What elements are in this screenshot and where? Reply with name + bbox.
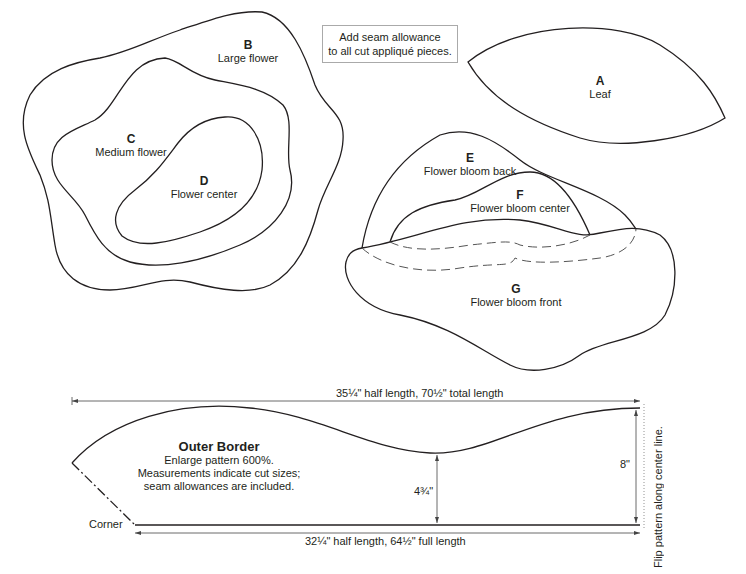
seam-allowance-note: Add seam allowance to all cut appliqué p… [322,25,458,63]
note-line-1: Add seam allowance [339,31,441,43]
top-dimension-label: 35¼" half length, 70½" total length [336,387,503,399]
medium-flower-outline [52,58,292,265]
outer-border-info: Outer Border Enlarge pattern 600%. Measu… [138,440,301,493]
overlap-dashed-line [362,229,636,270]
piece-d-label: D Flower center [171,175,238,201]
piece-f-label: F Flower bloom center [470,189,570,215]
piece-b-label: B Large flower [218,39,279,65]
piece-e-label: E Flower bloom back [424,152,516,178]
flip-note: Flip pattern along center line. [652,398,664,568]
corner-dash-line [72,463,135,525]
piece-c-label: C Medium flower [95,133,167,159]
corner-label: Corner [89,518,123,530]
note-line-2: to all cut appliqué pieces. [328,45,452,57]
end-height-label: 8" [620,458,630,470]
overlap-dashed-line-upper [390,235,590,249]
outer-border-title: Outer Border [138,440,301,453]
piece-g-label: G Flower bloom front [470,283,561,309]
mid-height-label: 4¾" [414,485,433,497]
pattern-drawing [0,0,746,574]
piece-a-label: A Leaf [589,75,610,101]
bottom-dimension-label: 32¼" half length, 64½" full length [305,535,466,547]
large-flower-outline [23,12,343,291]
